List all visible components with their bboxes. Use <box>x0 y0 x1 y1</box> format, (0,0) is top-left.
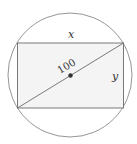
center-point <box>68 73 72 77</box>
diagram-canvas: x y 100 <box>0 0 137 144</box>
label-x: x <box>68 28 75 41</box>
label-y: y <box>111 70 119 83</box>
